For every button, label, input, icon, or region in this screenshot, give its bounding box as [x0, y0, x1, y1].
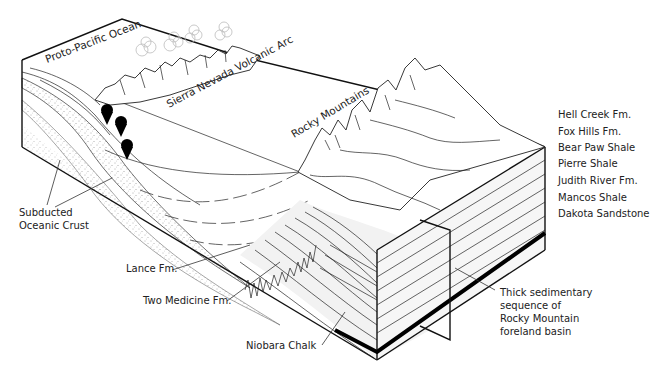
formation-label: Bear Paw Shale [558, 142, 635, 153]
formation-label: Judith River Fm. [557, 175, 638, 186]
basin-caption-line: Rocky Mountain [500, 313, 579, 324]
formation-label: Fox Hills Fm. [558, 126, 621, 137]
formation-list: Hell Creek Fm. Fox Hills Fm. Bear Paw Sh… [557, 109, 650, 219]
pin-icon [115, 116, 127, 137]
basin-caption-line: Thick sedimentary [499, 287, 593, 298]
label-proto-pacific-ocean: Proto-Pacific Ocean [43, 17, 142, 65]
basin-caption-line: foreland basin [500, 326, 571, 337]
label-lance-fm: Lance Fm. [126, 263, 178, 274]
label-niobara-chalk: Niobara Chalk [246, 340, 316, 351]
formation-label: Pierre Shale [558, 158, 618, 169]
formation-label: Hell Creek Fm. [558, 109, 631, 120]
basin-caption-line: sequence of [500, 300, 561, 311]
label-subducted-crust-1: Subducted [19, 207, 73, 218]
pin-icon [101, 104, 113, 125]
block-diagram: Proto-Pacific Ocean Sierra Nevada Volcan… [0, 0, 650, 369]
formation-label: Dakota Sandstone [558, 208, 650, 219]
label-two-medicine-fm: Two Medicine Fm. [142, 295, 231, 306]
label-subducted-crust-2: Oceanic Crust [19, 220, 89, 231]
foreland-basin-caption: Thick sedimentary sequence of Rocky Moun… [499, 287, 593, 337]
formation-label: Mancos Shale [558, 192, 627, 203]
